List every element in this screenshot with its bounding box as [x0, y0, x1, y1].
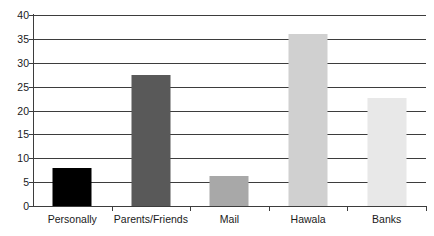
x-axis-tick-mark [269, 207, 270, 211]
bar [367, 98, 406, 206]
x-axis-category-labels: PersonallyParents/FriendsMailHawalaBanks [33, 213, 427, 231]
x-axis-category-label: Mail [190, 213, 269, 226]
y-axis-tick-mark [29, 182, 33, 183]
bar-band [33, 15, 112, 206]
gridline-y [33, 206, 426, 207]
y-axis-tick-mark [29, 111, 33, 112]
y-axis-tick-label: 10 [3, 153, 29, 163]
y-axis-tick-label: 30 [3, 58, 29, 68]
y-axis-tick-label: 5 [3, 177, 29, 187]
x-axis-category-label: Parents/Friends [112, 213, 191, 226]
bar-band [190, 15, 269, 206]
y-axis-tick-labels: 0510152025303540 [0, 0, 29, 236]
x-axis-category-label: Banks [347, 213, 426, 226]
y-axis-tick-mark [29, 63, 33, 64]
y-axis-tick-label: 0 [3, 201, 29, 211]
bar-band [347, 15, 426, 206]
y-axis-tick-label: 15 [3, 129, 29, 139]
y-axis-tick-label: 20 [3, 106, 29, 116]
y-axis-tick-mark [29, 15, 33, 16]
bar [289, 34, 328, 206]
chart-title [0, 0, 434, 2]
y-axis-tick-mark [29, 134, 33, 135]
bar [53, 168, 92, 206]
plot-area [33, 15, 426, 206]
bar-chart-figure: 0510152025303540 PersonallyParents/Frien… [0, 0, 434, 236]
y-axis-tick-mark [29, 87, 33, 88]
bar-band [269, 15, 348, 206]
x-axis-category-label: Hawala [269, 213, 348, 226]
x-axis-tick-mark [347, 207, 348, 211]
y-axis-tick-label: 35 [3, 34, 29, 44]
x-axis-tick-mark [190, 207, 191, 211]
x-axis-tick-mark [426, 207, 427, 211]
bar-band [112, 15, 191, 206]
y-axis-tick-mark [29, 158, 33, 159]
x-axis-category-label: Personally [33, 213, 112, 226]
x-axis-tick-mark [112, 207, 113, 211]
y-axis-tick-label: 40 [3, 10, 29, 20]
bar [131, 75, 170, 206]
y-axis-tick-mark [29, 39, 33, 40]
y-axis-tick-label: 25 [3, 82, 29, 92]
y-axis-tick-mark [29, 206, 33, 207]
bar [210, 176, 249, 206]
